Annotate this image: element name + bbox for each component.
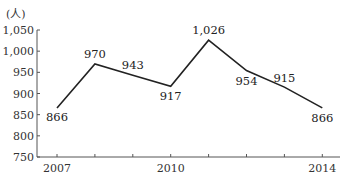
data-point-label: 917 [160,89,182,103]
x-tick-label: 2010 [157,162,185,175]
data-point-label: 866 [46,110,68,124]
y-tick-label: 1,050 [3,24,35,37]
y-tick-label: 800 [13,130,34,143]
y-tick-label: 750 [13,151,34,164]
data-point-label: 866 [311,111,333,125]
data-point-label: 1,026 [192,23,225,37]
data-point-label: 943 [122,58,144,72]
data-labels: 8669709439171,026954915866 [46,23,333,125]
data-point-label: 915 [273,71,295,85]
x-tick-label: 2014 [308,162,336,175]
data-point-label: 970 [84,47,106,61]
y-axis-unit-label: (人) [6,8,26,21]
line-chart: (人) 7508008509009501,0001,050 2007201020… [0,0,353,182]
x-axis: 200720102014 [37,154,340,175]
y-axis: 7508008509009501,0001,050 [3,24,41,164]
data-point-label: 954 [236,74,258,88]
x-tick-label: 2007 [43,162,71,175]
y-tick-label: 1,000 [3,45,35,58]
y-tick-label: 850 [13,109,34,122]
y-tick-label: 950 [13,66,34,79]
y-tick-label: 900 [13,88,34,101]
